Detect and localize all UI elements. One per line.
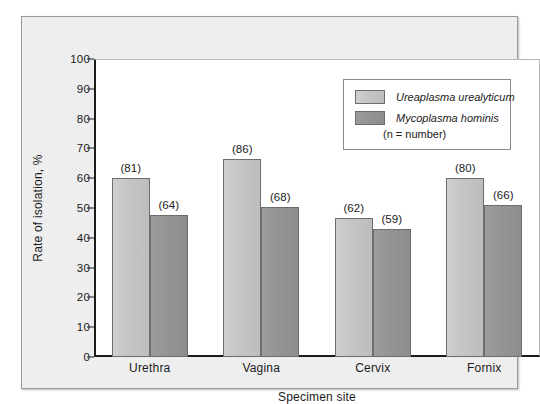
bar-value-label: (62) (344, 202, 364, 214)
y-tick-mark-90 (87, 88, 94, 89)
legend-swatch-mycoplasma (355, 111, 385, 125)
legend-item-1: Mycoplasma hominis (355, 111, 499, 125)
bar-value-label: (59) (382, 213, 402, 225)
y-tick-mark-100 (87, 59, 94, 60)
y-tick-label-10: 10 (60, 321, 90, 333)
y-tick-mark-20 (87, 297, 94, 298)
y-tick-mark-70 (87, 148, 94, 149)
bar-value-label: (86) (232, 143, 252, 155)
y-tick-label-60: 60 (60, 172, 90, 184)
x-tick-label-fornix: Fornix (467, 361, 502, 375)
bar-value-label: (68) (270, 191, 290, 203)
bar-cervix-mycoplasma: (59) (373, 229, 411, 357)
y-tick-mark-0 (87, 357, 94, 358)
y-tick-label-20: 20 (60, 291, 90, 303)
x-tick-label-vagina: Vagina (242, 361, 280, 375)
figure-panel: Rate of isolation, % 1009080706050403020… (21, 16, 518, 389)
legend-note: (n = number) (383, 128, 446, 140)
chart-legend: Ureaplasma urealyticum Mycoplasma homini… (343, 79, 511, 150)
y-tick-label-30: 30 (60, 262, 90, 274)
y-tick-mark-60 (87, 178, 94, 179)
y-tick-mark-80 (87, 118, 94, 119)
y-tick-mark-40 (87, 237, 94, 238)
legend-swatch-ureaplasma (355, 90, 385, 104)
y-tick-label-70: 70 (60, 142, 90, 154)
y-tick-mark-50 (87, 208, 94, 209)
bar-value-label: (66) (493, 189, 513, 201)
y-tick-label-90: 90 (60, 83, 90, 95)
legend-label-mycoplasma: Mycoplasma hominis (396, 112, 499, 124)
bar-vagina-mycoplasma: (68) (261, 207, 299, 357)
y-tick-label-50: 50 (60, 202, 90, 214)
legend-label-ureaplasma: Ureaplasma urealyticum (396, 91, 515, 103)
y-tick-label-100: 100 (60, 53, 90, 65)
chart-frame: Rate of isolation, % 1009080706050403020… (94, 59, 540, 357)
y-tick-label-40: 40 (60, 232, 90, 244)
bar-cervix-ureaplasma: (62) (335, 218, 373, 357)
x-tick-label-cervix: Cervix (355, 361, 390, 375)
y-tick-mark-10 (87, 327, 94, 328)
x-axis-title: Specimen site (278, 390, 356, 404)
y-tick-mark-30 (87, 267, 94, 268)
bar-value-label: (80) (455, 162, 475, 174)
bar-fornix-mycoplasma: (66) (484, 205, 522, 357)
y-axis-title: Rate of isolation, % (31, 154, 45, 261)
bar-vagina-ureaplasma: (86) (223, 159, 261, 357)
x-tick-label-urethra: Urethra (129, 361, 170, 375)
legend-item-0: Ureaplasma urealyticum (355, 90, 515, 104)
y-tick-label-80: 80 (60, 113, 90, 125)
bar-value-label: (81) (121, 162, 141, 174)
bar-urethra-mycoplasma: (64) (150, 215, 188, 357)
y-tick-label-0: 0 (60, 351, 90, 363)
bar-fornix-ureaplasma: (80) (446, 178, 484, 357)
bar-urethra-ureaplasma: (81) (112, 178, 150, 357)
bar-value-label: (64) (159, 199, 179, 211)
